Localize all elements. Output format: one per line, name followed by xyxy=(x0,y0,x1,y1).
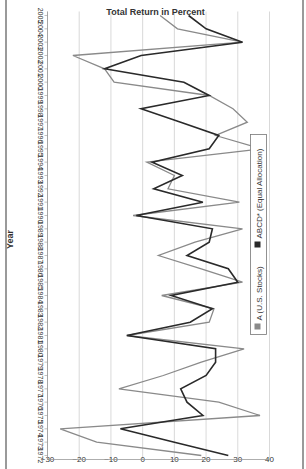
legend-label-a: A (U.S. Stocks) xyxy=(254,265,263,320)
series-line-a xyxy=(60,15,261,455)
y-tick-label: 20 xyxy=(201,454,210,463)
legend-label-abcd: ABCD* (Equal Allocation) xyxy=(254,148,263,238)
line-chart: 403020100−10−20−301972197319741975197619… xyxy=(0,0,306,469)
x-tick-label: 2005 xyxy=(36,7,43,23)
y-tick-label: 30 xyxy=(233,454,242,463)
x-axis-title: Year xyxy=(4,229,14,249)
data-lines xyxy=(60,15,261,455)
legend: A (U.S. Stocks) ABCD* (Equal Allocation) xyxy=(250,134,266,334)
legend-swatch-abcd xyxy=(254,241,260,247)
y-tick-label: 40 xyxy=(265,454,274,463)
y-tick-label: −20 xyxy=(72,454,86,463)
y-axis-title: Total Return in Percent xyxy=(106,6,204,16)
axes: 403020100−10−20−301972197319741975197619… xyxy=(36,7,274,463)
legend-swatch-a xyxy=(254,323,260,329)
y-tick-label: −10 xyxy=(104,454,118,463)
y-tick-label: 0 xyxy=(140,454,145,463)
rotated-chart: 403020100−10−20−301972197319741975197619… xyxy=(0,0,306,469)
y-tick-label: 10 xyxy=(169,454,178,463)
chart-frame: 403020100−10−20−301972197319741975197619… xyxy=(0,0,306,469)
